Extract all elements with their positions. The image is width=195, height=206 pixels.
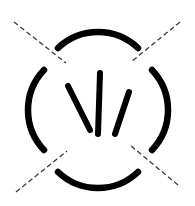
symbol-canvas bbox=[0, 0, 195, 206]
center-ray-line bbox=[98, 73, 100, 134]
symbol-figure bbox=[0, 0, 195, 206]
